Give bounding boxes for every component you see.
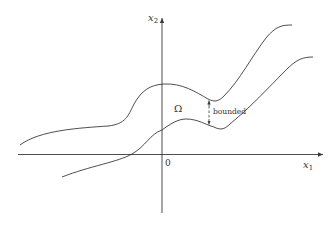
x-axis-label: x1 (303, 159, 313, 172)
origin-label: 0 (165, 158, 171, 168)
domain-diagram: x2 x1 0 Ω bounded (0, 0, 336, 226)
lower-boundary-curve (62, 57, 313, 177)
upper-boundary-curve (20, 25, 292, 145)
y-axis-label: x2 (148, 12, 158, 25)
diagram-canvas: x2 x1 0 Ω bounded (0, 0, 336, 226)
bounded-annotation: bounded (213, 107, 246, 116)
region-omega-label: Ω (174, 103, 182, 114)
